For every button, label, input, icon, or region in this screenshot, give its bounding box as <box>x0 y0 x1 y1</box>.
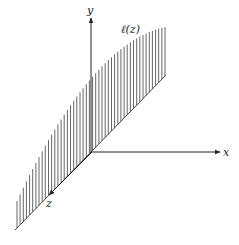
z-axis-label: z <box>45 197 52 210</box>
x-axis-label: x <box>223 146 230 159</box>
y-axis-label: y <box>86 4 94 17</box>
diagram-canvas: x y z ℓ(z) <box>0 0 239 245</box>
curve-label: ℓ(z) <box>121 23 140 36</box>
